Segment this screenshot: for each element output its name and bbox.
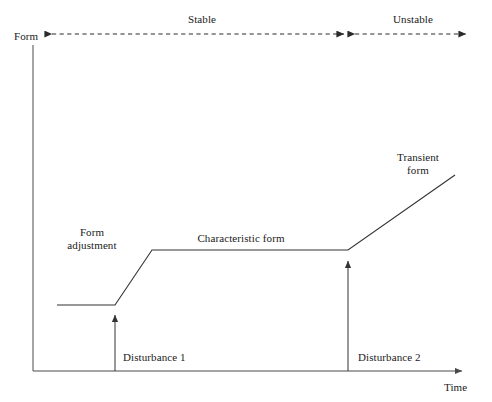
diagram-vector-layer <box>0 0 492 402</box>
x-axis-label: Time <box>444 381 484 394</box>
y-axis-label: Form <box>14 30 48 43</box>
disturbance-1-label: Disturbance 1 <box>123 351 203 364</box>
transient-form-label-line2: form <box>390 164 446 177</box>
form-stability-diagram: Form Time Stable Unstable Form adjustmen… <box>0 0 492 402</box>
characteristic-form-label: Characteristic form <box>181 232 301 245</box>
transient-form-label-line1: Transient <box>390 151 446 164</box>
unstable-regime-label: Unstable <box>378 13 448 26</box>
form-adjustment-label-line2: adjustment <box>62 239 122 252</box>
disturbance-2-label: Disturbance 2 <box>358 351 438 364</box>
stable-regime-label: Stable <box>167 13 237 26</box>
form-adjustment-label-line1: Form <box>62 226 122 239</box>
